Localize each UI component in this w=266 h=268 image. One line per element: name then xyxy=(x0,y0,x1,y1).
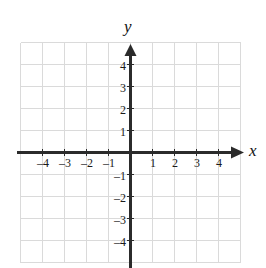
x-tick-label-2: 2 xyxy=(164,157,186,169)
figure-background xyxy=(0,0,266,268)
y-tick-label-1: 1 xyxy=(108,126,126,138)
x-tick-label-minus-1: –1 xyxy=(98,157,120,169)
x-axis-label: x xyxy=(249,142,257,159)
coordinate-plane-svg xyxy=(0,0,266,268)
x-tick-label-minus-3: –3 xyxy=(54,157,76,169)
y-tick-label-minus-1: –1 xyxy=(104,170,126,182)
x-tick-label-3: 3 xyxy=(186,157,208,169)
x-tick-label-4: 4 xyxy=(208,157,230,169)
y-tick-label-minus-3: –3 xyxy=(104,214,126,226)
x-tick-label-1: 1 xyxy=(142,157,164,169)
y-axis-label: y xyxy=(124,18,132,35)
y-tick-label-minus-2: –2 xyxy=(104,192,126,204)
x-tick-label-minus-4: –4 xyxy=(32,157,54,169)
y-tick-label-minus-4: –4 xyxy=(104,236,126,248)
x-tick-label-minus-2: –2 xyxy=(76,157,98,169)
y-tick-label-2: 2 xyxy=(108,104,126,116)
y-tick-label-3: 3 xyxy=(108,82,126,94)
coordinate-plane-figure: –4 –3 –2 –1 1 2 3 4 4 3 2 1 –1 –2 –3 –4 … xyxy=(0,0,266,268)
y-tick-label-4: 4 xyxy=(108,60,126,72)
